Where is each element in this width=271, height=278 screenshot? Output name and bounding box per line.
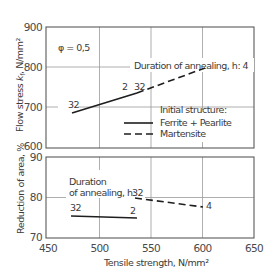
y-tick-700: 700: [24, 101, 42, 113]
x-axis: 450 500 550 600 650 Tensile strength, N/…: [39, 242, 263, 268]
bottom-m-end-label: 4: [206, 200, 212, 211]
bottom-y-axis-label: Reduction of area, %: [15, 143, 26, 234]
phi-annotation: φ = 0,5: [58, 42, 90, 53]
y-tick-900: 900: [24, 21, 42, 33]
bottom-martensite-line: [135, 198, 203, 207]
top-panel: 900 800 700 600 Flow stress kf, N/mm² φ …: [14, 21, 254, 152]
bottom-m-start-label: 32: [132, 187, 144, 198]
top-ferrite-pearlite-line: [72, 93, 137, 113]
y-tick-800: 800: [24, 61, 42, 73]
y-tick-90: 90: [30, 151, 42, 163]
x-tick-600: 600: [193, 242, 211, 254]
bottom-panel: 90 80 70 Reduction of area, % Duration o…: [15, 143, 254, 243]
top-y-axis-label: Flow stress kf, N/mm²: [14, 37, 27, 132]
legend-title: Initial structure:: [160, 104, 227, 115]
legend-ferrite-pearlite: Ferrite + Pearlite: [160, 117, 232, 128]
bottom-duration-line1: Duration: [69, 176, 107, 187]
bottom-duration-line2: of annealing, h:: [69, 187, 136, 198]
top-m-start-label: 32: [134, 81, 146, 92]
bottom-ferrite-pearlite-line: [71, 216, 137, 218]
bottom-fp-end-label: 2: [130, 205, 136, 216]
y-tick-80: 80: [30, 191, 42, 203]
legend-martensite: Martensite: [160, 128, 206, 139]
x-tick-550: 550: [142, 242, 160, 254]
top-fp-start-label: 32: [68, 99, 80, 110]
bottom-fp-start-label: 32: [70, 202, 82, 213]
top-duration-annotation: Duration of annealing, h: 4: [134, 60, 249, 71]
x-tick-450: 450: [39, 242, 57, 254]
x-axis-label: Tensile strength, N/mm²: [103, 257, 209, 268]
x-tick-650: 650: [245, 242, 263, 254]
top-fp-end-label: 2: [122, 81, 128, 92]
x-tick-500: 500: [90, 242, 108, 254]
chart-figure: 900 800 700 600 Flow stress kf, N/mm² φ …: [0, 0, 271, 278]
